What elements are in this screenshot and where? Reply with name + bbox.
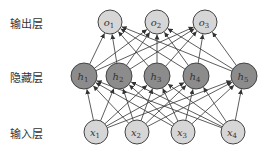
output-node-o1: o1 [98,10,122,34]
input-hidden-edge [101,88,114,120]
hidden-output-edge [90,33,105,64]
hidden-node-h5: h5 [231,63,257,89]
hidden-output-edge [94,29,146,68]
input-node-x4: x4 [221,120,245,144]
input-node-x1: x1 [84,120,108,144]
nodes: o1o2o3h1h2h3h4h5x1x2x3x4 [71,10,257,144]
output-node-o2: o2 [145,10,169,34]
input-hidden-edge [203,87,226,122]
input-node-x2: x2 [125,120,149,144]
hidden-node-h2: h2 [106,63,132,89]
input-node-x3: x3 [171,120,195,144]
input-hidden-edge [235,89,241,120]
input-hidden-edge [87,89,94,120]
hidden-output-edge [212,32,236,65]
hidden-output-edge [126,32,149,65]
neural-network-diagram: o1o2o3h1h2h3h4h5x1x2x3x4 [0,0,264,158]
input-hidden-edge [141,89,152,121]
hidden-output-edge [112,34,117,63]
output-node-o3: o3 [193,10,217,34]
hidden-node-h1: h1 [71,63,97,89]
hidden-output-edge [121,29,185,69]
input-hidden-edge [192,85,234,124]
hidden-node-h3: h3 [144,63,170,89]
hidden-node-h4: h4 [183,63,209,89]
